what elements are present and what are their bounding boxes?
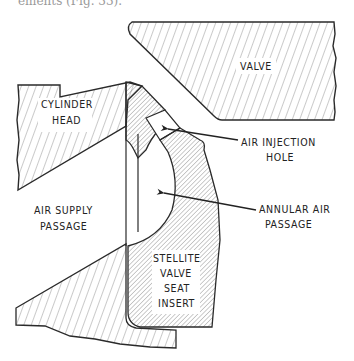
air-injection-label-1: AIR INJECTION (241, 136, 316, 148)
seat-insert-label-4: INSERT (158, 297, 195, 309)
stellite-seat-insert: STELLITE VALVE SEAT INSERT (128, 128, 220, 327)
cylinder-head-label-2: HEAD (52, 114, 81, 126)
cylinder-head-label-1: CYLINDER (41, 98, 93, 110)
valve-label: VALVE (240, 60, 272, 72)
air-injection-label-2: HOLE (266, 151, 294, 163)
valve-seat-cross-section-diagram: VALVE CYLINDER HEAD STELLITE VALVE SEAT … (0, 0, 354, 361)
annular-passage-label-1: ANNULAR AIR (259, 203, 330, 215)
air-supply-label-2: PASSAGE (40, 220, 87, 232)
seat-insert-label-2: VALVE (160, 267, 192, 279)
seat-insert-label-1: STELLITE (153, 252, 201, 264)
seat-insert-label-3: SEAT (164, 282, 190, 294)
air-supply-label-1: AIR SUPPLY (34, 204, 93, 216)
cylinder-head-part: CYLINDER HEAD (17, 82, 142, 190)
annular-passage-label-2: PASSAGE (265, 218, 312, 230)
air-supply-passage-area: AIR SUPPLY PASSAGE (34, 204, 93, 232)
